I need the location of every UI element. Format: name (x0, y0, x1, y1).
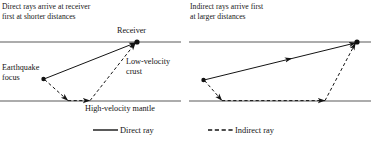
low-velocity-crust-label: Low-velocity crust (126, 57, 170, 77)
indirect-ray-right-downleg (205, 81, 223, 101)
crust-label-line2: crust (126, 67, 142, 76)
left-title-line1: Direct rays arrive at receiver (2, 2, 90, 11)
high-velocity-mantle-label: High-velocity mantle (85, 104, 155, 114)
left-title-line2: first at shorter distances (2, 12, 76, 21)
receiver-label: Receiver (117, 26, 146, 36)
left-panel-title: Direct rays arrive at receiver first at … (2, 2, 90, 21)
legend-direct-ray-label: Direct ray (120, 126, 154, 136)
receiver-dot-left (134, 39, 139, 44)
legend-indirect-ray-label: Indirect ray (235, 126, 274, 136)
receiver-dot-right (354, 39, 359, 44)
right-title-line1: Indirect rays arrive first (190, 2, 263, 11)
right-panel-title: Indirect rays arrive first at larger dis… (190, 2, 263, 21)
direct-ray-left (44, 43, 136, 79)
indirect-ray-right-upleg (325, 43, 356, 101)
focus-label-line1: Earthquake (2, 63, 39, 72)
indirect-ray-left-downleg (45, 80, 69, 101)
crust-label-line1: Low-velocity (126, 57, 170, 66)
direct-ray-right (204, 43, 356, 80)
earthquake-focus-label: Earthquake focus (2, 63, 39, 83)
right-title-line2: at larger distances (190, 12, 246, 21)
focus-label-line2: focus (2, 73, 20, 82)
seismic-ray-diagram: Direct rays arrive at receiver first at … (0, 0, 372, 145)
diagram-canvas (0, 0, 372, 145)
right-panel-geometry (189, 39, 371, 101)
earthquake-focus-dot-left (41, 77, 45, 81)
earthquake-focus-dot-right (201, 78, 205, 82)
